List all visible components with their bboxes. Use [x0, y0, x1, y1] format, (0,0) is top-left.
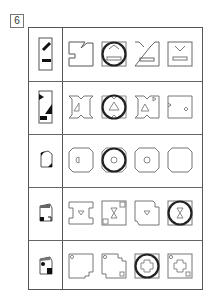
option-5-4[interactable] [166, 252, 194, 280]
option-3-4[interactable] [166, 146, 194, 174]
key-figure-2 [36, 89, 56, 127]
option-1-3[interactable] [133, 40, 161, 68]
option-1-2[interactable] [100, 40, 128, 68]
puzzle-row-3 [29, 134, 202, 187]
option-1-1[interactable] [67, 40, 95, 68]
option-1-4[interactable] [166, 40, 194, 68]
puzzle-row-1 [29, 28, 202, 81]
puzzle-row-2 [29, 81, 202, 134]
option-2-4[interactable] [166, 93, 194, 121]
key-figure-5 [36, 248, 56, 286]
puzzle-grid [28, 27, 203, 290]
option-5-3[interactable] [133, 252, 161, 280]
option-3-3[interactable] [133, 146, 161, 174]
option-2-3[interactable] [133, 93, 161, 121]
option-3-1[interactable] [67, 146, 95, 174]
key-figure-3 [36, 142, 56, 180]
question-number: 6 [10, 14, 24, 28]
option-4-4[interactable] [166, 199, 194, 227]
option-5-2[interactable] [100, 252, 128, 280]
option-4-3[interactable] [133, 199, 161, 227]
option-2-1[interactable] [67, 93, 95, 121]
option-4-1[interactable] [67, 199, 95, 227]
option-2-2[interactable] [100, 93, 128, 121]
puzzle-row-4 [29, 187, 202, 240]
puzzle-row-5 [29, 240, 202, 293]
option-5-1[interactable] [67, 252, 95, 280]
key-figure-1 [36, 36, 56, 74]
option-3-2[interactable] [100, 146, 128, 174]
key-figure-4 [36, 195, 56, 233]
option-4-2[interactable] [100, 199, 128, 227]
